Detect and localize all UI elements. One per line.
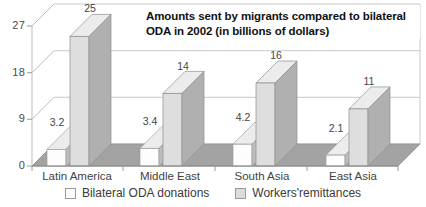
bar-chart: 27 18 9 0 Amounts sent by migrants compa…: [0, 0, 426, 207]
legend-item-oda[interactable]: Bilateral ODA donations: [65, 186, 209, 200]
legend-swatch-icon-oda: [65, 188, 76, 199]
bar-front-face: [140, 148, 159, 166]
bar-front-face: [233, 144, 252, 166]
x-label-latin-america: Latin America: [27, 170, 127, 182]
legend-item-remittances[interactable]: Workers'remittances: [235, 186, 361, 200]
value-label-oda-latin-america: 3.2: [41, 116, 73, 128]
chart-legend: Bilateral ODA donations Workers'remittan…: [0, 186, 426, 200]
chart-title-line1: Amounts sent by migrants compared to bil…: [146, 9, 406, 23]
bar-front-face: [349, 109, 368, 166]
x-label-east-asia: East Asia: [303, 170, 403, 182]
value-label-oda-south-asia: 4.2: [227, 111, 259, 123]
bar-front-face: [256, 83, 275, 166]
value-label-oda-middle-east: 3.4: [134, 115, 166, 127]
x-label-south-asia: South Asia: [212, 170, 312, 182]
bar-front-face: [326, 155, 345, 166]
y-axis-ticks: [27, 26, 32, 166]
y-tick-label-18: 18: [0, 66, 25, 78]
bar-front-face: [163, 93, 182, 166]
chart-title-line2: ODA in 2002 (in billions of dollars): [146, 24, 329, 38]
axis-depth-connectors: [32, 4, 54, 166]
bar-remittances-south-asia: [256, 61, 297, 166]
legend-swatch-icon-remittances: [235, 188, 246, 199]
bar-front-face: [47, 149, 66, 166]
value-label-oda-east-asia: 2.1: [320, 122, 352, 134]
bar-remittances-latin-america: [70, 14, 111, 166]
bar-side-face: [89, 14, 111, 166]
legend-label-remittances: Workers'remittances: [252, 186, 361, 200]
value-label-remittances-middle-east: 14: [167, 60, 199, 72]
y-tick-label-27: 27: [0, 19, 25, 31]
y-tick-label-0: 0: [0, 159, 25, 171]
value-label-remittances-east-asia: 11: [353, 75, 385, 87]
legend-label-oda: Bilateral ODA donations: [82, 186, 209, 200]
bar-front-face: [70, 36, 89, 166]
value-label-remittances-south-asia: 16: [260, 49, 292, 61]
value-label-remittances-latin-america: 25: [74, 2, 106, 14]
x-label-middle-east: Middle East: [120, 170, 220, 182]
y-tick-label-9: 9: [0, 112, 25, 124]
